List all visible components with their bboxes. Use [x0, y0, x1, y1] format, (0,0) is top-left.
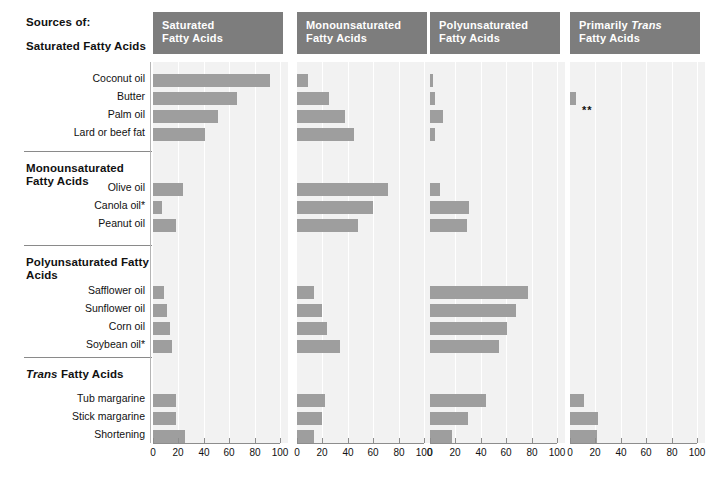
sources-of-title: Sources of:	[26, 16, 90, 28]
x-tick-0	[297, 438, 298, 443]
x-tick-label: 40	[192, 447, 216, 458]
bar	[153, 412, 176, 425]
group-divider-3	[24, 357, 152, 358]
x-tick-label: 40	[609, 447, 633, 458]
bar	[297, 304, 322, 317]
x-tick-100	[424, 438, 425, 443]
x-tick-label: 60	[361, 447, 385, 458]
x-tick-label: 0	[418, 447, 442, 458]
bar	[297, 286, 314, 299]
bar	[153, 74, 270, 87]
gridline-80	[532, 62, 533, 443]
x-tick-0	[153, 438, 154, 443]
bar	[430, 394, 486, 407]
x-tick-label: 80	[243, 447, 267, 458]
group-heading-4: Trans Fatty Acids	[26, 368, 124, 381]
plot-area-4	[570, 62, 705, 443]
panel-2: MonounsaturatedFatty Acids020406080100	[297, 0, 432, 483]
x-tick-label: 40	[336, 447, 360, 458]
x-tick-label: 80	[660, 447, 684, 458]
bar	[430, 110, 443, 123]
x-tick-60	[506, 438, 507, 443]
gridline-100	[557, 62, 558, 443]
x-tick-20	[178, 438, 179, 443]
bar	[570, 430, 597, 443]
gridline-40	[348, 62, 349, 443]
x-tick-100	[557, 438, 558, 443]
x-tick-label: 20	[583, 447, 607, 458]
x-tick-label: 40	[469, 447, 493, 458]
x-tick-label: 100	[685, 447, 709, 458]
row-label: Peanut oil	[98, 217, 145, 229]
row-label: Canola oil*	[94, 199, 145, 211]
x-tick-20	[595, 438, 596, 443]
x-axis-2	[297, 443, 424, 444]
bar	[570, 412, 598, 425]
row-label: Butter	[117, 90, 145, 102]
bar	[430, 340, 499, 353]
bar	[430, 412, 468, 425]
bar	[297, 430, 314, 443]
gridline-40	[481, 62, 482, 443]
bar	[297, 110, 345, 123]
gridline-60	[506, 62, 507, 443]
gridline-60	[229, 62, 230, 443]
panel-title-line1: Saturated	[162, 19, 215, 31]
x-tick-label: 20	[443, 447, 467, 458]
bar	[153, 340, 172, 353]
x-tick-100	[697, 438, 698, 443]
x-tick-label: 60	[494, 447, 518, 458]
row-label: Stick margarine	[72, 410, 145, 422]
bar	[297, 412, 322, 425]
x-tick-label: 60	[217, 447, 241, 458]
x-tick-80	[399, 438, 400, 443]
panel-4: Primarily TransFatty Acids020406080100	[570, 0, 705, 483]
x-tick-label: 20	[310, 447, 334, 458]
x-tick-20	[322, 438, 323, 443]
gridline-80	[399, 62, 400, 443]
x-tick-0	[570, 438, 571, 443]
group-divider-2	[24, 245, 152, 246]
bar	[297, 340, 340, 353]
bar	[297, 201, 373, 214]
bar	[297, 74, 308, 87]
gridline-100	[280, 62, 281, 443]
bar	[153, 304, 167, 317]
x-axis-3	[430, 443, 557, 444]
x-tick-100	[280, 438, 281, 443]
panel-header-3: PolyunsaturatedFatty Acids	[430, 12, 560, 54]
panel-3: PolyunsaturatedFatty Acids020406080100	[430, 0, 565, 483]
x-tick-40	[621, 438, 622, 443]
row-label: Tub margarine	[77, 392, 145, 404]
x-tick-label: 0	[558, 447, 582, 458]
x-tick-60	[646, 438, 647, 443]
bar	[430, 128, 435, 141]
bar	[430, 304, 516, 317]
x-tick-40	[348, 438, 349, 443]
bar	[153, 201, 162, 214]
gridline-80	[255, 62, 256, 443]
bar	[430, 74, 433, 87]
x-tick-80	[532, 438, 533, 443]
group-heading-1: Saturated Fatty Acids	[26, 40, 146, 53]
panel-1: SaturatedFatty Acids020406080100	[153, 0, 288, 483]
bar	[297, 183, 388, 196]
fatty-acid-sources-chart: Sources of:Saturated Fatty AcidsMonounsa…	[0, 0, 720, 483]
panel-header-1: SaturatedFatty Acids	[153, 12, 283, 54]
bar	[297, 219, 358, 232]
gridline-20	[455, 62, 456, 443]
bar	[430, 430, 452, 443]
row-label: Palm oil	[108, 108, 145, 120]
bar	[153, 92, 237, 105]
bar	[153, 430, 185, 443]
double-asterisk-note: **	[582, 104, 593, 116]
group-heading-text: Fatty Acids	[61, 368, 124, 380]
bar	[430, 92, 435, 105]
group-heading-3: Polyunsaturated Fatty Acids	[26, 256, 150, 282]
bar	[153, 286, 164, 299]
panel-title-line2: Fatty Acids	[439, 32, 500, 44]
panel-title-line1: Monounsaturated	[306, 19, 401, 31]
x-tick-label: 20	[166, 447, 190, 458]
panel-title-line1: Primarily	[579, 19, 631, 31]
panel-title-line2: Fatty Acids	[306, 32, 367, 44]
